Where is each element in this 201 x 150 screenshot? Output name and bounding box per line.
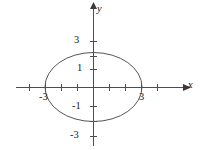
y-axis-arrowhead	[90, 2, 97, 9]
x-axis-label: x	[188, 80, 193, 91]
x-tick-label-3: 3	[139, 92, 144, 103]
plot-svg	[0, 0, 201, 150]
y-tick-label-minus-3: -3	[70, 130, 79, 141]
y-tick-label-minus-1: -1	[72, 101, 81, 112]
y-tick-label-1: 1	[77, 63, 82, 74]
coordinate-plane-figure: 3 1 -1 -3 -3 3 x y	[0, 0, 201, 150]
y-axis-label: y	[97, 4, 102, 15]
y-tick-label-3: 3	[74, 35, 79, 46]
x-tick-label-minus-3: -3	[39, 92, 48, 103]
